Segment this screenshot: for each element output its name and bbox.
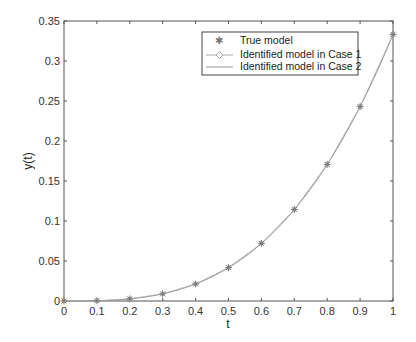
y-tick-label: 0.3 bbox=[45, 55, 60, 67]
data-point-true-model bbox=[390, 31, 397, 38]
x-tick-label: 1 bbox=[390, 305, 396, 317]
star-marker-icon: ✱ bbox=[215, 35, 223, 46]
y-tick-label: 0.15 bbox=[39, 175, 60, 187]
x-tick-label: 0.2 bbox=[122, 305, 137, 317]
y-tick-label: 0.05 bbox=[39, 255, 60, 267]
x-tick-label: 0.8 bbox=[320, 305, 335, 317]
chart: 00.10.20.30.40.50.60.70.80.9100.050.10.1… bbox=[0, 0, 416, 342]
x-tick-label: 0.7 bbox=[287, 305, 302, 317]
data-point-true-model bbox=[357, 103, 364, 110]
x-tick-label: 0.6 bbox=[254, 305, 269, 317]
data-point-true-model bbox=[93, 297, 100, 304]
x-tick-label: 0.4 bbox=[188, 305, 203, 317]
legend-label: True model bbox=[240, 34, 293, 46]
data-point-true-model bbox=[324, 161, 331, 168]
x-tick-label: 0 bbox=[61, 305, 67, 317]
y-tick-label: 0.1 bbox=[45, 215, 60, 227]
y-tick-label: 0 bbox=[54, 295, 60, 307]
data-point-true-model bbox=[159, 290, 166, 297]
x-tick-label: 0.1 bbox=[89, 305, 104, 317]
data-point-true-model bbox=[225, 264, 232, 271]
y-tick-label: 0.35 bbox=[39, 15, 60, 27]
x-axis-label: t bbox=[226, 317, 230, 331]
legend: ✱ True model Identified model in Case 1 … bbox=[202, 32, 362, 75]
data-point-true-model bbox=[258, 240, 265, 247]
y-tick-label: 0.25 bbox=[39, 95, 60, 107]
data-point-true-model bbox=[126, 295, 133, 302]
data-point-true-model bbox=[192, 280, 199, 287]
data-point-true-model bbox=[291, 206, 298, 213]
x-tick-label: 0.9 bbox=[352, 305, 367, 317]
legend-label: Identified model in Case 1 bbox=[240, 48, 362, 60]
data-point-true-model bbox=[61, 298, 68, 305]
x-tick-label: 0.5 bbox=[221, 305, 236, 317]
y-tick-label: 0.2 bbox=[45, 135, 60, 147]
y-axis-label: y(t) bbox=[21, 152, 35, 169]
legend-label: Identified model in Case 2 bbox=[240, 60, 362, 72]
x-tick-label: 0.3 bbox=[155, 305, 170, 317]
